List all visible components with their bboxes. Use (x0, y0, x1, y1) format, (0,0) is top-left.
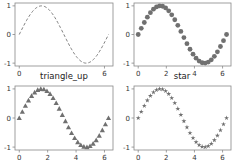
circle-marker (182, 35, 187, 40)
triangle_up-marker (97, 133, 102, 138)
y-tick-label: 1 (7, 2, 11, 10)
subplot-title-star: star (174, 71, 191, 81)
y-tick-label: -1 (123, 144, 130, 152)
y-tick-label: 0 (126, 31, 130, 39)
star-marker (212, 138, 217, 143)
x-tick-label: 0 (17, 154, 21, 162)
triangle_up-marker (63, 119, 68, 124)
circle-marker (136, 32, 141, 37)
x-tick-label: 4 (74, 154, 79, 162)
circle-marker (166, 8, 171, 13)
star-marker (166, 91, 171, 96)
axes-frame (134, 86, 231, 150)
triangle_up-marker (69, 130, 74, 135)
y-tick-label: -1 (4, 144, 11, 152)
triangle_up-marker (20, 109, 25, 114)
circle-marker (221, 38, 226, 43)
x-tick-label: 0 (17, 70, 21, 78)
triangle_up-marker (66, 125, 71, 130)
triangle_up-marker (51, 95, 56, 100)
circle-marker (178, 29, 183, 34)
star-marker (188, 130, 193, 135)
triangle_up-marker (103, 122, 108, 127)
circle-marker (218, 44, 223, 49)
x-tick-label: 2 (164, 154, 168, 162)
axes-frame (15, 86, 113, 150)
circle-marker (188, 47, 193, 52)
circle-marker (145, 15, 150, 20)
x-tick-label: 2 (164, 70, 168, 78)
circle-marker (212, 54, 217, 59)
star-marker (178, 112, 183, 117)
subplot-title-triangle-up: triangle_up (40, 71, 88, 81)
triangle_up-marker (26, 98, 31, 103)
star-marker (142, 103, 147, 108)
subplot-top-right-circle: 0246-101 (123, 2, 231, 78)
star-marker (218, 128, 223, 133)
circle-marker (185, 41, 190, 46)
x-tick-label: 6 (102, 70, 107, 78)
star-marker (215, 133, 220, 138)
star-marker (145, 98, 150, 103)
y-tick-label: 1 (126, 2, 130, 10)
star-marker (184, 125, 189, 130)
y-tick-label: 0 (7, 115, 11, 123)
sine-line (19, 6, 108, 63)
circle-marker (139, 26, 144, 31)
star-marker (221, 122, 226, 127)
star-marker (181, 119, 186, 124)
x-tick-label: 2 (45, 154, 49, 162)
subplot-bottom-right-star: 0246-101 (123, 85, 231, 162)
triangle_up-marker (17, 115, 22, 120)
star-marker (194, 139, 199, 144)
triangle_up-marker (75, 139, 80, 144)
subplot-bottom-left-triangle: 0246-101 (4, 85, 113, 162)
x-tick-label: 4 (192, 70, 197, 78)
y-tick-label: 0 (7, 31, 11, 39)
x-tick-label: 0 (136, 154, 140, 162)
triangle_up-marker (60, 112, 65, 117)
circle-marker (175, 23, 180, 28)
star-marker (206, 143, 211, 148)
circle-marker (172, 17, 177, 22)
x-tick-label: 6 (220, 70, 225, 78)
y-tick-label: 1 (126, 85, 130, 93)
star-marker (154, 87, 159, 92)
star-marker (136, 115, 141, 120)
circle-marker (224, 32, 229, 37)
x-tick-label: 6 (220, 154, 225, 162)
x-tick-label: 4 (192, 154, 197, 162)
triangle_up-marker (106, 115, 111, 120)
y-tick-label: 1 (7, 85, 11, 93)
circle-marker (191, 52, 196, 57)
triangle_up-marker (23, 103, 28, 108)
triangle_up-marker (57, 106, 62, 111)
x-tick-label: 6 (102, 154, 107, 162)
y-tick-label: 0 (126, 115, 130, 123)
circle-marker (215, 49, 220, 54)
x-tick-label: 0 (136, 70, 140, 78)
triangle_up-marker (100, 128, 105, 133)
triangle_up-marker (72, 135, 77, 140)
figure: 06-101 0246-101 0246-101 0246-101 triang… (0, 0, 234, 163)
star-marker (139, 109, 144, 114)
star-marker (151, 90, 156, 95)
subplot-top-left-line: 06-101 (4, 2, 113, 78)
star-marker (169, 95, 174, 100)
y-tick-label: -1 (123, 60, 130, 68)
y-tick-label: -1 (4, 60, 11, 68)
circle-marker (142, 20, 147, 25)
triangle_up-marker (54, 100, 59, 105)
star-marker (172, 100, 177, 105)
star-marker (175, 106, 180, 111)
star-marker (224, 115, 229, 120)
triangle_up-marker (94, 138, 99, 143)
star-marker (191, 135, 196, 140)
circle-marker (169, 12, 174, 17)
